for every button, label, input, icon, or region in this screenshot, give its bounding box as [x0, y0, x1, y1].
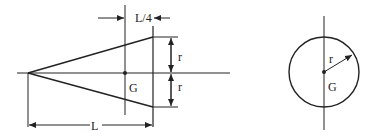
cone-top-edge	[28, 37, 153, 73]
l-label: L	[91, 119, 98, 133]
cone-side-view	[17, 5, 230, 127]
r-label-top: r	[178, 50, 182, 64]
r-label-bottom: r	[178, 80, 182, 94]
circle-r-label: r	[329, 52, 333, 66]
l4-label: L/4	[135, 11, 152, 25]
centroid-dot	[123, 71, 127, 75]
g-label: G	[129, 81, 138, 95]
circle-g-label: G	[328, 80, 337, 94]
circle-centroid-dot	[322, 70, 326, 74]
cone-diagram: L/4 r r G L r G	[0, 0, 377, 137]
